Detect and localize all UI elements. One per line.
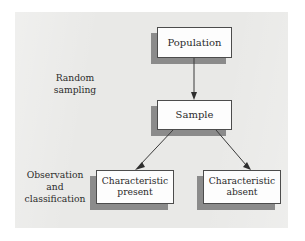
node-characteristic-present[interactable]: Characteristic present	[96, 170, 174, 204]
edge-label-observation-line3: classification	[25, 193, 86, 204]
node-characteristic-present-line2: present	[117, 186, 152, 197]
node-population-label: Population	[164, 37, 224, 49]
node-characteristic-absent[interactable]: Characteristic absent	[203, 170, 281, 204]
node-characteristic-absent-line2: absent	[226, 186, 257, 197]
edge-label-random-sampling-line2: sampling	[54, 84, 96, 95]
node-population[interactable]: Population	[157, 27, 232, 58]
node-characteristic-present-label: Characteristic present	[99, 176, 171, 198]
node-characteristic-absent-label: Characteristic absent	[206, 176, 278, 198]
edge-label-observation-and-classification: Observation and classification	[16, 169, 94, 204]
edge-label-observation-line2: and	[46, 181, 63, 192]
node-sample[interactable]: Sample	[157, 100, 232, 130]
edge-label-observation-line1: Observation	[27, 169, 84, 180]
node-characteristic-present-line1: Characteristic	[102, 175, 168, 186]
node-sample-label: Sample	[173, 109, 217, 121]
figure-root: Population Sample Characteristic present…	[0, 0, 305, 241]
edge-label-random-sampling: Random sampling	[32, 72, 118, 96]
edge-label-random-sampling-line1: Random	[56, 72, 95, 83]
node-characteristic-absent-line1: Characteristic	[209, 175, 275, 186]
